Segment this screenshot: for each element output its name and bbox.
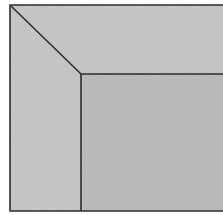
- inner-panel: [81, 74, 223, 211]
- frame-corner-diagram: [0, 0, 223, 215]
